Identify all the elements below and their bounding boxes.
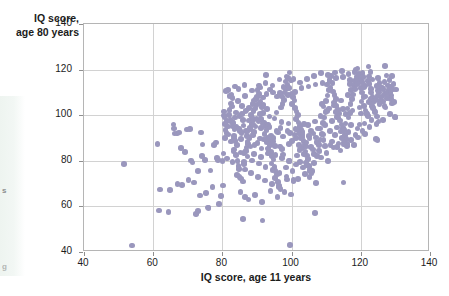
edge-text-fragment-upper: s	[2, 186, 6, 195]
data-point	[362, 131, 368, 137]
data-point	[240, 216, 246, 222]
data-point	[260, 218, 266, 224]
data-point	[190, 160, 196, 166]
data-point	[235, 98, 241, 104]
data-point	[286, 158, 292, 164]
data-point	[156, 208, 162, 214]
x-tick-mark	[292, 252, 293, 256]
y-tick-mark	[79, 161, 83, 162]
data-point	[355, 135, 361, 141]
data-point	[311, 73, 317, 79]
data-point	[166, 209, 172, 215]
data-point	[250, 132, 256, 138]
data-point	[272, 143, 278, 149]
data-point	[257, 100, 263, 106]
data-point	[370, 77, 376, 83]
data-point	[179, 182, 185, 188]
data-point	[380, 117, 386, 123]
data-point	[304, 76, 310, 82]
x-tick-mark	[153, 252, 154, 256]
data-point	[384, 95, 390, 101]
data-point	[318, 155, 324, 161]
data-point	[252, 192, 258, 198]
data-point	[282, 189, 288, 195]
data-point	[297, 147, 303, 153]
data-point	[359, 79, 365, 85]
data-point	[280, 134, 286, 140]
x-tick-label: 120	[347, 257, 373, 268]
data-point	[216, 201, 222, 207]
data-point	[155, 141, 161, 147]
data-point	[187, 126, 193, 132]
data-point	[368, 69, 374, 75]
data-point	[311, 160, 317, 166]
data-point	[333, 75, 339, 81]
data-point	[320, 132, 326, 138]
data-point	[270, 167, 276, 173]
data-point	[339, 135, 345, 141]
data-point	[383, 105, 389, 111]
data-point	[347, 81, 353, 87]
data-point	[318, 70, 324, 76]
data-point	[236, 126, 242, 132]
data-point	[298, 135, 304, 141]
data-point	[339, 68, 345, 74]
data-point	[334, 144, 340, 150]
data-point	[273, 152, 279, 158]
x-tick-label: 60	[139, 257, 165, 268]
data-point	[367, 124, 373, 130]
data-point	[332, 70, 338, 76]
data-point	[195, 168, 201, 174]
data-point	[230, 159, 236, 165]
data-point	[341, 142, 347, 148]
data-point	[241, 161, 247, 167]
data-point	[315, 126, 321, 132]
data-point	[263, 72, 269, 78]
x-tick-mark	[222, 252, 223, 256]
x-tick-label: 40	[70, 257, 96, 268]
data-point	[351, 142, 357, 148]
y-tick-mark	[79, 70, 83, 71]
data-point	[305, 122, 311, 128]
data-point	[268, 188, 274, 194]
data-point	[285, 128, 291, 134]
data-point	[292, 89, 298, 95]
data-point	[244, 133, 250, 139]
data-point	[213, 140, 219, 146]
y-tick-label: 80	[46, 154, 72, 165]
data-point	[129, 243, 135, 249]
data-point	[251, 151, 257, 157]
data-point	[352, 86, 358, 92]
data-point	[208, 168, 214, 174]
data-point	[328, 142, 334, 148]
data-point	[301, 151, 307, 157]
data-point	[334, 125, 340, 131]
data-point	[375, 137, 381, 143]
data-point	[279, 155, 285, 161]
data-point	[317, 148, 323, 154]
data-point	[319, 101, 325, 107]
data-point	[382, 63, 388, 69]
data-point	[325, 158, 331, 164]
data-point	[175, 181, 181, 187]
data-point	[263, 164, 269, 170]
data-point	[320, 80, 326, 86]
data-point	[228, 139, 234, 145]
data-point	[157, 187, 163, 193]
y-tick-label: 40	[46, 245, 72, 256]
data-point	[291, 76, 297, 82]
data-point	[326, 106, 332, 112]
data-point	[198, 130, 204, 136]
data-point	[240, 179, 246, 185]
data-point	[167, 187, 173, 193]
data-point	[255, 174, 261, 180]
data-point	[313, 82, 319, 88]
data-point	[206, 205, 212, 211]
data-point	[291, 177, 297, 183]
data-point	[270, 83, 276, 89]
data-point	[340, 106, 346, 112]
data-point	[267, 124, 273, 130]
data-point	[238, 136, 244, 142]
data-point	[318, 113, 324, 119]
data-point	[341, 180, 347, 186]
